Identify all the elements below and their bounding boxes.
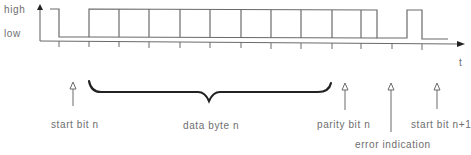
error-indication-arrow-icon — [388, 83, 394, 132]
x-axis — [40, 41, 458, 44]
parity-bit-n-arrow-icon — [342, 83, 348, 110]
start-bit-n-arrow-icon — [70, 82, 76, 106]
x-axis-arrowhead-icon — [457, 41, 465, 47]
timing-diagram-graphic — [0, 0, 471, 155]
serial-frame-diagram: high low t start bit n data byte n parit… — [0, 0, 471, 155]
start-bit-n-label: start bit n — [51, 120, 99, 130]
data-byte-brace-icon — [89, 81, 331, 101]
start-bit-n1-label: start bit n+1 — [411, 120, 471, 130]
x-axis-ticks — [59, 41, 422, 50]
start-bit-n1-arrow-icon — [434, 83, 440, 109]
error-indication-label: error indication — [355, 140, 431, 150]
data-byte-n-label: data byte n — [183, 121, 239, 131]
signal-waveform — [50, 9, 448, 39]
y-axis-arrowhead-icon — [37, 4, 43, 10]
y-axis-high-label: high — [4, 5, 25, 15]
parity-bit-n-label: parity bit n — [317, 120, 370, 130]
y-axis-low-label: low — [4, 29, 21, 39]
x-axis-t-label: t — [459, 58, 462, 68]
